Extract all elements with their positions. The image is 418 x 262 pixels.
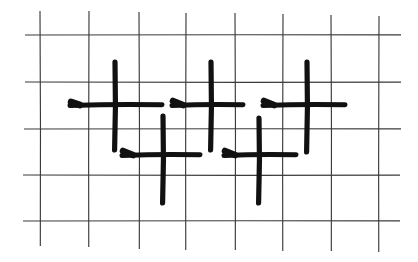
plus-mark-horizontal-stroke — [70, 104, 162, 105]
plus-mark-start-hook — [173, 101, 183, 105]
grid-figure-canvas — [0, 0, 418, 262]
grid-line-vertical — [139, 12, 140, 249]
plus-mark-vertical-stroke — [307, 62, 308, 152]
grid-line-vertical — [235, 13, 236, 250]
plus-mark-start-hook — [225, 151, 235, 155]
plus-mark-vertical-stroke — [163, 116, 164, 203]
plus-mark-vertical-stroke — [259, 118, 260, 203]
plus-mark-start-hook — [123, 151, 133, 155]
plus-mark-start-hook — [71, 102, 80, 105]
plus-mark-start-hook — [264, 101, 274, 105]
figure-root — [0, 0, 418, 262]
grid-line-vertical — [331, 15, 332, 251]
